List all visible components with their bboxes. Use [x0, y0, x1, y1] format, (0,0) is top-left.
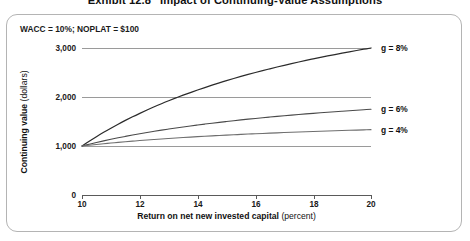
series-curves [0, 0, 470, 241]
curve-g-4-percent [82, 130, 371, 146]
series-label-g-4-percent: g = 4% [381, 125, 408, 135]
exhibit-figure: Exhibit 12.8Impact of Continuing-Value A… [0, 0, 470, 241]
series-label-g-8-percent: g = 8% [381, 43, 408, 53]
series-label-g-6-percent: g = 6% [381, 104, 408, 114]
curve-g-6-percent [82, 109, 371, 146]
